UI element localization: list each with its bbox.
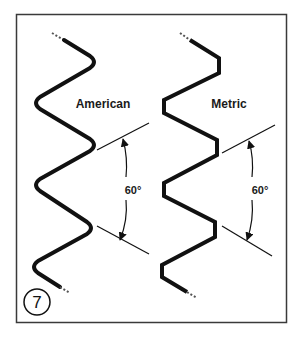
thread-comparison-figure: American 60° Metric 60° 7 xyxy=(0,0,299,338)
american-title: American xyxy=(76,97,131,111)
figure-number-badge: 7 xyxy=(24,289,50,315)
metric-title: Metric xyxy=(211,97,247,111)
american-thread-profile xyxy=(34,33,94,293)
figure-number: 7 xyxy=(32,293,41,312)
american-angle-label: 60° xyxy=(125,184,142,196)
metric-thread-profile xyxy=(162,33,219,298)
metric-angle-label: 60° xyxy=(252,184,269,196)
